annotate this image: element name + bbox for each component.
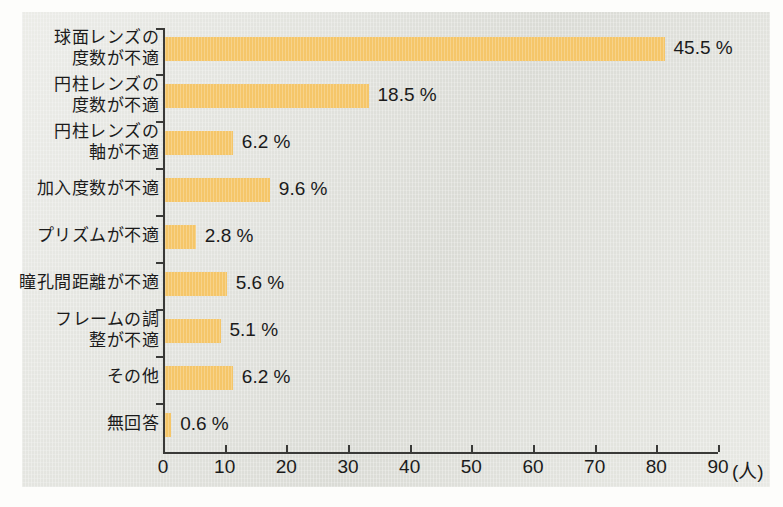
bar-value-label: 6.2 % bbox=[242, 366, 291, 388]
bar[interactable] bbox=[165, 84, 369, 108]
bar[interactable] bbox=[165, 272, 227, 296]
chart-figure: 球面レンズの 度数が不適45.5 %円柱レンズの 度数が不適18.5 %円柱レン… bbox=[0, 0, 783, 507]
chart-plot-area: 球面レンズの 度数が不適45.5 %円柱レンズの 度数が不適18.5 %円柱レン… bbox=[0, 0, 783, 507]
x-axis-tick bbox=[348, 445, 350, 452]
bar-value-label: 6.2 % bbox=[242, 131, 291, 153]
x-axis-tick-label: 40 bbox=[399, 456, 420, 478]
x-axis-tick-label: 30 bbox=[337, 456, 358, 478]
x-axis-tick bbox=[595, 445, 597, 452]
y-axis-tick bbox=[156, 215, 163, 217]
bar-value-label: 2.8 % bbox=[205, 225, 254, 247]
y-axis-tick bbox=[156, 309, 163, 311]
x-axis-tick bbox=[533, 445, 535, 452]
x-axis-unit-label: (人) bbox=[732, 456, 764, 483]
x-axis-tick-label: 10 bbox=[214, 456, 235, 478]
bar-value-label: 5.6 % bbox=[236, 272, 285, 294]
bar[interactable] bbox=[165, 366, 233, 390]
bar-value-label: 0.6 % bbox=[180, 413, 229, 435]
y-axis-tick bbox=[156, 28, 163, 30]
x-axis-tick bbox=[718, 445, 720, 452]
x-axis-tick bbox=[471, 445, 473, 452]
x-axis-tick bbox=[163, 445, 165, 452]
x-axis-tick-label: 50 bbox=[461, 456, 482, 478]
bar[interactable] bbox=[165, 178, 270, 202]
x-axis-tick bbox=[656, 445, 658, 452]
x-axis-tick bbox=[410, 445, 412, 452]
x-axis-tick-label: 0 bbox=[158, 456, 169, 478]
bar[interactable] bbox=[165, 413, 171, 437]
x-axis-tick bbox=[286, 445, 288, 452]
category-label: 球面レンズの 度数が不適 bbox=[54, 27, 159, 69]
bar[interactable] bbox=[165, 225, 196, 249]
category-label: 円柱レンズの 軸が不適 bbox=[54, 121, 159, 163]
bar[interactable] bbox=[165, 319, 221, 343]
category-label: 無回答 bbox=[107, 413, 160, 434]
category-label: プリズムが不適 bbox=[37, 225, 160, 246]
category-label: その他 bbox=[107, 366, 160, 387]
x-axis-tick-label: 90 bbox=[707, 456, 728, 478]
bar-value-label: 9.6 % bbox=[279, 178, 328, 200]
y-axis-tick bbox=[156, 74, 163, 76]
y-axis-tick bbox=[156, 356, 163, 358]
bar-value-label: 5.1 % bbox=[230, 319, 279, 341]
category-label: 円柱レンズの 度数が不適 bbox=[54, 74, 159, 116]
y-axis-tick bbox=[156, 403, 163, 405]
category-label: 瞳孔間距離が不適 bbox=[19, 272, 159, 293]
x-axis-line bbox=[163, 452, 718, 454]
category-label: 加入度数が不適 bbox=[37, 178, 160, 199]
x-axis-tick-label: 60 bbox=[522, 456, 543, 478]
x-axis-tick-label: 20 bbox=[276, 456, 297, 478]
y-axis-tick bbox=[156, 262, 163, 264]
x-axis-tick-label: 80 bbox=[646, 456, 667, 478]
x-axis-tick bbox=[225, 445, 227, 452]
category-label: フレームの調 整が不適 bbox=[55, 309, 159, 351]
y-axis-tick bbox=[156, 121, 163, 123]
y-axis-tick bbox=[156, 168, 163, 170]
bar[interactable] bbox=[165, 131, 233, 155]
bar[interactable] bbox=[165, 37, 665, 61]
x-axis-tick-label: 70 bbox=[584, 456, 605, 478]
bar-value-label: 18.5 % bbox=[378, 84, 437, 106]
bar-value-label: 45.5 % bbox=[674, 37, 733, 59]
